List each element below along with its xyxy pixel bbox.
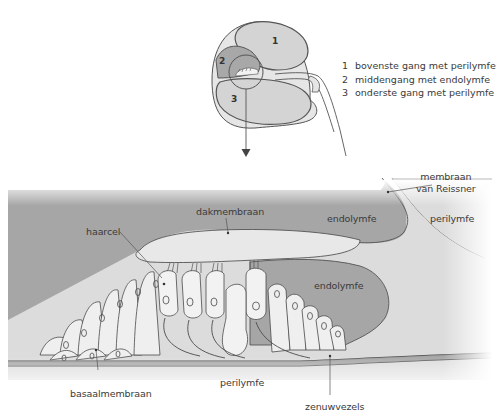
label-dakmembraan: dakmembraan	[196, 207, 264, 217]
label-endolymfe-upper: endolymfe	[327, 214, 377, 224]
label-zenuwvezels: zenuwvezels	[305, 402, 364, 412]
label-basaalmembraan: basaalmembraan	[70, 389, 152, 399]
label-membraan-van-reissner: membraan van Reissner	[416, 172, 476, 193]
label-haarcel: haarcel	[86, 227, 120, 237]
duct-number-1: 1	[272, 36, 278, 46]
label-perilymfe-lower: perilymfe	[220, 378, 264, 388]
label-endolymfe-lower: endolymfe	[314, 281, 364, 291]
cochlea-overview	[212, 22, 346, 157]
legend: 1 bovenste gang met perilymfe 2 middenga…	[342, 59, 496, 100]
duct-number-3: 3	[231, 94, 237, 104]
legend-item: 3 onderste gang met perilymfe	[342, 86, 496, 100]
duct-number-2: 2	[219, 56, 225, 66]
legend-item: 2 middengang met endolymfe	[342, 73, 496, 87]
label-perilymfe-upper: perilymfe	[430, 214, 474, 224]
legend-item: 1 bovenste gang met perilymfe	[342, 59, 496, 73]
